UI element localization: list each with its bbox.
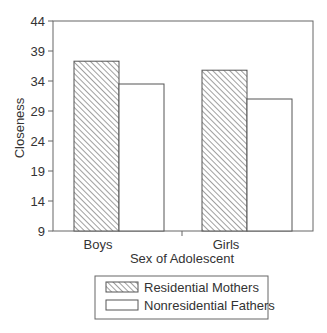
legend-swatch-nonresidential-fathers bbox=[106, 300, 138, 310]
y-tick-label: 39 bbox=[31, 44, 45, 59]
bar-girls-residential-mothers bbox=[202, 70, 247, 231]
bar-boys-residential-mothers bbox=[74, 61, 119, 231]
y-tick-label: 19 bbox=[31, 164, 45, 179]
bars bbox=[74, 61, 292, 231]
legend-label-nonresidential-fathers: Nonresidential Fathers bbox=[144, 298, 275, 313]
legend-label-residential-mothers: Residential Mothers bbox=[144, 280, 259, 295]
y-tick-label: 44 bbox=[31, 14, 45, 29]
y-tick-label: 29 bbox=[31, 104, 45, 119]
bar-boys-nonresidential-fathers bbox=[119, 84, 164, 231]
legend-swatch-residential-mothers bbox=[106, 282, 138, 292]
y-tick-label: 24 bbox=[31, 134, 45, 149]
y-tick-label: 9 bbox=[38, 224, 45, 239]
legend: Residential Mothers Nonresidential Fathe… bbox=[95, 276, 275, 319]
x-axis-title: Sex of Adolescent bbox=[130, 251, 234, 266]
x-tick-label: Boys bbox=[84, 237, 113, 252]
bar-chart: 914192429343944 BoysGirls Closeness Sex … bbox=[0, 0, 327, 333]
y-tick-label: 14 bbox=[31, 194, 45, 209]
bar-girls-nonresidential-fathers bbox=[247, 99, 292, 231]
y-axis-title: Closeness bbox=[12, 97, 27, 158]
x-axis: BoysGirls bbox=[84, 231, 240, 252]
x-tick-label: Girls bbox=[213, 237, 240, 252]
y-tick-label: 34 bbox=[31, 74, 45, 89]
y-axis: 914192429343944 bbox=[31, 14, 53, 239]
